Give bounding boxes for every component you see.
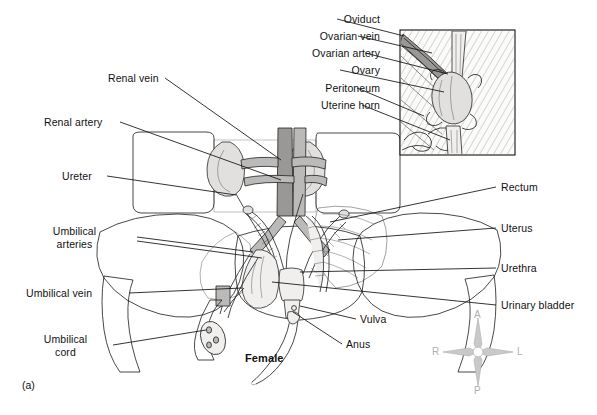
compass-rose: [443, 318, 513, 386]
label-umbilical-cord-line2: cord: [18, 346, 113, 359]
subject-label-female: Female: [245, 352, 284, 365]
label-renal-vein: Renal vein: [108, 72, 159, 85]
label-umbilical-arteries: Umbilical arteries: [27, 225, 122, 250]
label-ureter: Ureter: [62, 170, 92, 183]
compass-label-right: R: [432, 346, 439, 357]
figure-canvas: Oviduct Ovarian vein Ovarian artery Ovar…: [0, 0, 597, 415]
label-rectum: Rectum: [501, 181, 538, 194]
urinary-bladder: [242, 250, 279, 309]
label-umbilical-arteries-line1: Umbilical: [27, 225, 122, 238]
label-ovary: Ovary: [351, 64, 380, 77]
compass-label-anterior: A: [474, 309, 481, 320]
label-umbilical-vein: Umbilical vein: [26, 287, 92, 300]
kidneys: [207, 142, 325, 196]
label-peritoneum: Peritoneum: [325, 82, 380, 95]
figure-caption: (a): [22, 379, 35, 391]
label-ovarian-vein: Ovarian vein: [320, 30, 380, 43]
label-umbilical-cord-line1: Umbilical: [18, 333, 113, 346]
label-umbilical-cord: Umbilical cord: [18, 333, 113, 358]
inset-detail-panel: [400, 30, 515, 155]
label-urethra: Urethra: [501, 262, 537, 275]
label-oviduct: Oviduct: [344, 13, 380, 26]
label-umbilical-arteries-line2: arteries: [27, 238, 122, 251]
compass-label-left: L: [517, 346, 523, 357]
compass-label-posterior: P: [474, 385, 481, 396]
label-vulva: Vulva: [360, 313, 386, 326]
label-ovarian-artery: Ovarian artery: [312, 47, 380, 60]
label-urinary-bladder: Urinary bladder: [501, 299, 574, 312]
label-uterine-horn: Uterine horn: [321, 99, 380, 112]
label-anus: Anus: [346, 338, 370, 351]
label-uterus: Uterus: [501, 222, 533, 235]
label-renal-artery: Renal artery: [44, 116, 102, 129]
